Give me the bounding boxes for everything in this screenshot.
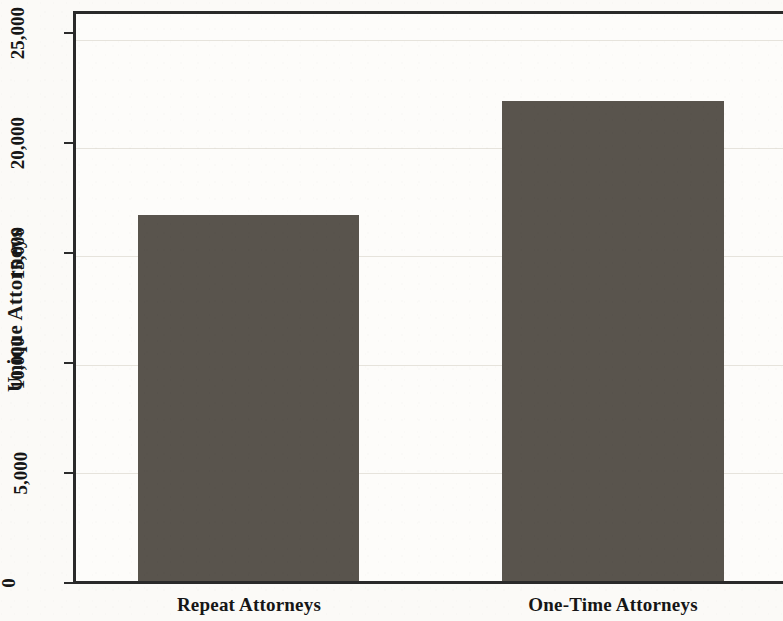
- bar-repeat-attorneys[interactable]: [138, 215, 359, 581]
- y-tick-label-0: 0: [0, 528, 22, 621]
- x-tick-label-repeat-attorneys: Repeat Attorneys: [135, 592, 363, 618]
- plot-area: [73, 11, 783, 584]
- y-tick-label-15000: 15,000: [5, 198, 31, 308]
- bar-chart-figure: Unique Attorneys 25,000 20,000 15,000 10…: [0, 0, 783, 621]
- y-tick-label-25000: 25,000: [5, 0, 31, 88]
- y-tick-label-20000: 20,000: [5, 88, 31, 198]
- bar-one-time-attorneys[interactable]: [502, 101, 724, 581]
- y-tick-label-10000: 10,000: [5, 308, 31, 418]
- x-tick-label-one-time-attorneys: One-Time Attorneys: [499, 592, 727, 618]
- y-tick-label-5000: 5,000: [8, 418, 34, 528]
- gridline-25000: [76, 40, 783, 41]
